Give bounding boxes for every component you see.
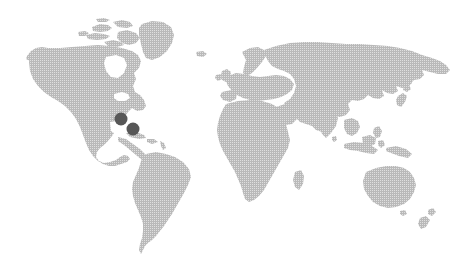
map-marker-layer: Gulf of Mexico Caribbean <box>0 0 475 270</box>
world-map-widget: Gulf of Mexico Caribbean <box>0 0 475 270</box>
marker-caribbean[interactable]: Caribbean <box>127 123 140 136</box>
marker-gulf-of-mexico[interactable]: Gulf of Mexico <box>115 113 128 126</box>
